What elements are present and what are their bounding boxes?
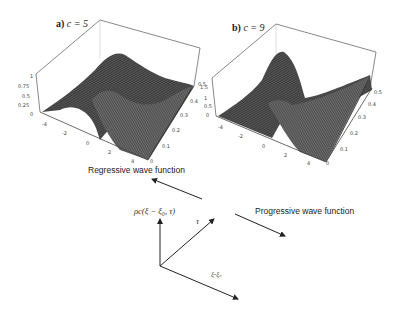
tau-axis-label: τ: [196, 216, 199, 226]
figure-canvas: [0, 0, 401, 320]
regressive-caption: Regressive wave function: [88, 165, 185, 175]
panel-b-label: b) c = 9: [232, 22, 265, 33]
surface-plot-b: [212, 24, 376, 162]
panel-a-label: a) c = 5: [56, 18, 88, 29]
xi-axis-label: ξ-ξ₀: [211, 270, 222, 278]
axis-arrows: [152, 179, 285, 299]
progressive-caption: Progressive wave function: [255, 206, 354, 216]
surface-plot-a: [36, 20, 200, 160]
vertical-axis-label: ρc(ξ − ξ₀, τ): [134, 206, 175, 216]
